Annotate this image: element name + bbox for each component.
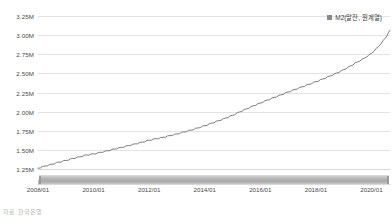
x-axis-tick-label: 2020/01 <box>360 186 382 193</box>
x-axis-tick-label: 2010/01 <box>82 186 104 193</box>
range-slider-handle-right[interactable] <box>387 176 389 184</box>
x-axis-tick-label: 2008/01 <box>27 186 49 193</box>
legend-swatch-icon <box>327 15 332 20</box>
x-axis-tick-label: 2018/01 <box>305 186 327 193</box>
chart-legend[interactable]: M2(말잔, 원계열) <box>327 13 382 22</box>
chart-container: 1.25M1.50M1.75M2.00M2.25M2.50M2.75M3.00M… <box>0 0 392 216</box>
range-slider[interactable] <box>39 175 389 185</box>
x-axis-tick-label: 2014/01 <box>194 186 216 193</box>
range-slider-handle-left[interactable] <box>39 176 41 184</box>
x-axis-tick-label: 2012/01 <box>138 186 160 193</box>
footer-note: 자료: 한국은행 <box>3 209 143 216</box>
legend-label-m2: M2(말잔, 원계열) <box>335 13 382 22</box>
x-axis-tick-label: 2016/01 <box>249 186 271 193</box>
